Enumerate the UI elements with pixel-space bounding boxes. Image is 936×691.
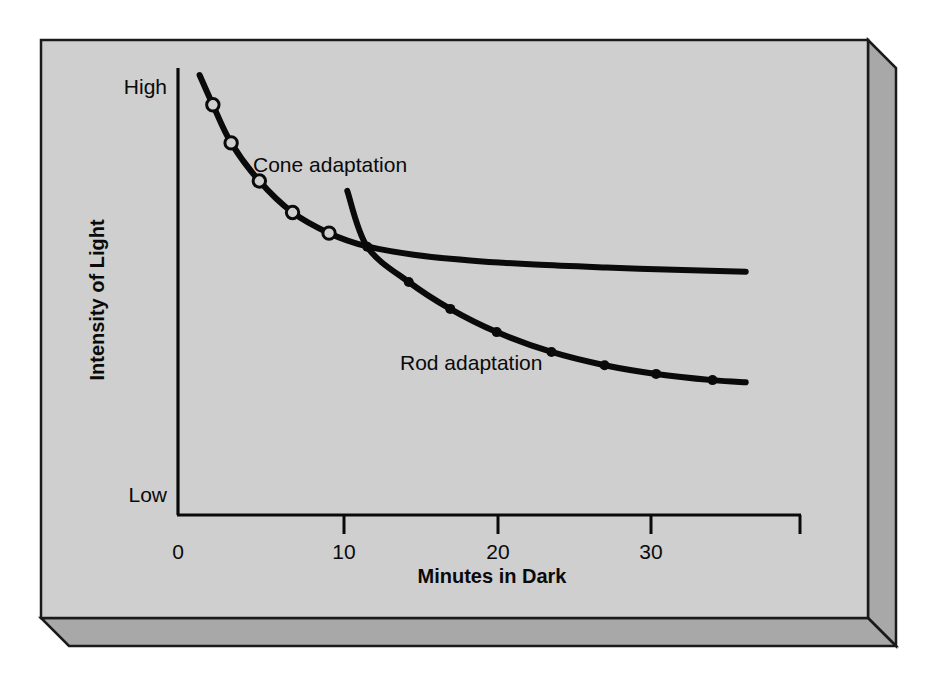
- x-tick-label-0: 0: [172, 540, 184, 563]
- data-point-open: [286, 206, 298, 218]
- data-point-filled: [492, 327, 502, 337]
- data-point-filled: [362, 242, 372, 252]
- x-tick-label-10: 10: [332, 540, 355, 563]
- panel-bevel-bottom: [41, 618, 896, 646]
- x-axis-title: Minutes in Dark: [418, 565, 568, 587]
- dark-adaptation-chart: 0 10 20 30 Minutes in Dark High Low Inte…: [0, 0, 936, 691]
- figure-root: 0 10 20 30 Minutes in Dark High Low Inte…: [0, 0, 936, 691]
- data-point-filled: [445, 304, 455, 314]
- data-point-open: [207, 99, 219, 111]
- data-point-open: [323, 227, 335, 239]
- data-point-open: [225, 137, 237, 149]
- data-point-open: [253, 175, 265, 187]
- x-tick-label-30: 30: [639, 540, 662, 563]
- annotation-cone-adaptation: Cone adaptation: [253, 153, 407, 176]
- data-point-filled: [600, 360, 610, 370]
- y-axis-title: Intensity of Light: [86, 219, 108, 380]
- panel-bevel-right: [868, 40, 896, 646]
- x-tick-label-20: 20: [486, 540, 509, 563]
- data-point-filled: [708, 375, 718, 385]
- data-point-filled: [651, 369, 661, 379]
- annotation-rod-adaptation: Rod adaptation: [400, 351, 542, 374]
- data-point-filled: [547, 347, 557, 357]
- y-tick-label-high: High: [124, 75, 167, 98]
- data-point-filled: [404, 277, 414, 287]
- panel-front: [41, 40, 868, 618]
- y-tick-label-low: Low: [128, 483, 167, 506]
